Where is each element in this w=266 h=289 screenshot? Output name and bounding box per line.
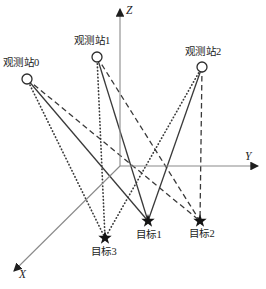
sightline-station-2-target-2 <box>200 67 202 221</box>
sightline-station-0-target-3 <box>27 79 105 238</box>
station-0-label: 观测站0 <box>3 58 39 69</box>
station-2-marker <box>197 62 207 72</box>
target-1-label: 目标1 <box>136 230 162 241</box>
sightline-station-0-target-2 <box>27 79 200 221</box>
station-1-label: 观测站1 <box>74 36 110 47</box>
sightline-station-2-target-1 <box>148 67 202 221</box>
y-axis-label: Y <box>245 151 251 163</box>
target-3-label: 目标3 <box>91 247 117 258</box>
target-2-star <box>193 214 206 227</box>
diagram-canvas <box>0 0 266 289</box>
station-1-marker <box>92 52 102 62</box>
x-axis-label: X <box>19 269 26 281</box>
sightline-station-1-target-3 <box>97 57 105 238</box>
station-2-label: 观测站2 <box>185 47 221 58</box>
station-target-geometry-figure: Z Y X 观测站0 观测站1 观测站2 目标1 目标2 目标3 <box>0 0 266 289</box>
sightline-station-1-target-1 <box>97 57 148 221</box>
target-2-label: 目标2 <box>189 229 215 240</box>
sightline-station-1-target-2 <box>97 57 200 221</box>
z-axis-label: Z <box>126 5 132 17</box>
sightline-station-0-target-1 <box>27 79 148 221</box>
target-3-star <box>98 231 111 244</box>
station-0-marker <box>22 74 32 84</box>
